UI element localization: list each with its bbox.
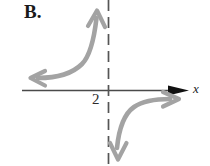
graph-figure: B. 2 x [0,0,210,166]
x-axis-tick-label: 2 [92,92,100,107]
function-graph [0,0,210,166]
x-axis-label: x [193,82,199,95]
